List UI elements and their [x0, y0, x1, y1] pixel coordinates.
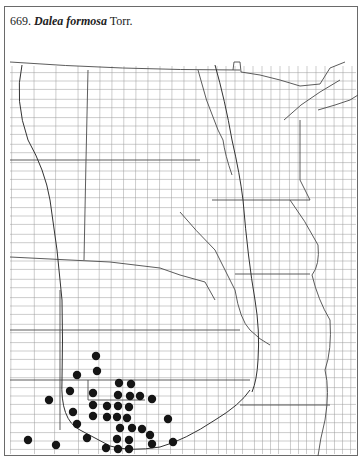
occurrence-dot [102, 444, 110, 452]
range-line-east [215, 65, 259, 392]
occurrence-dot [52, 441, 60, 449]
map-page: 669. Dalea formosa Torr. [0, 0, 364, 459]
occurrence-dot [114, 445, 122, 453]
canada-border [10, 62, 240, 70]
occurrence-dot [116, 424, 124, 432]
occurrence-dot [169, 438, 177, 446]
occurrence-dot [73, 371, 81, 379]
occurrence-dot [89, 389, 97, 397]
mississippi-river [290, 200, 330, 456]
occurrence-dots [24, 352, 177, 453]
occurrence-dot [93, 367, 101, 375]
occurrence-dot [83, 434, 91, 442]
occurrence-dot [113, 413, 121, 421]
occurrence-dot [114, 391, 122, 399]
occurrence-dot [89, 401, 97, 409]
occurrence-dot [89, 412, 97, 420]
occurrence-dot [127, 380, 135, 388]
nd-mn-border [198, 70, 232, 175]
sd-ne-border [10, 257, 215, 300]
occurrence-dot [148, 395, 156, 403]
occurrence-dot [123, 414, 131, 422]
lake-superior-shore [284, 80, 358, 120]
occurrence-dot [125, 403, 133, 411]
occurrence-dot [125, 445, 133, 453]
occurrence-dot [66, 387, 74, 395]
occurrence-dot [69, 408, 77, 416]
occurrence-dot [114, 402, 122, 410]
occurrence-dot [138, 425, 146, 433]
occurrence-dot [146, 431, 154, 439]
occurrence-dot [103, 413, 111, 421]
west-state-line [84, 70, 88, 260]
county-map [0, 0, 364, 459]
occurrence-dot [164, 415, 172, 423]
wi-border [300, 120, 310, 200]
occurrence-dot [24, 436, 32, 444]
occurrence-dot [148, 440, 156, 448]
occurrence-dot [125, 436, 133, 444]
occurrence-dot [73, 420, 81, 428]
occurrence-dot [126, 392, 134, 400]
occurrence-dot [128, 424, 136, 432]
occurrence-dot [115, 379, 123, 387]
occurrence-dot [45, 396, 53, 404]
occurrence-dot [113, 435, 121, 443]
occurrence-dot [103, 402, 111, 410]
occurrence-dot [92, 352, 100, 360]
occurrence-dot [136, 392, 144, 400]
